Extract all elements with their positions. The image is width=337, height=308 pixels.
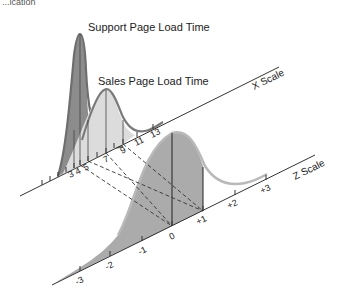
- z-tick-label: -1: [136, 244, 148, 257]
- z-tick-label: +3: [258, 182, 272, 195]
- z-axis-label: Z Scale: [291, 157, 327, 182]
- z-tick-label: -2: [103, 259, 115, 272]
- support-curve-title: Support Page Load Time: [88, 21, 210, 33]
- z-tick-label: +2: [225, 197, 239, 210]
- z-tick-label: -3: [73, 274, 85, 287]
- x-tick-label: 11: [132, 135, 145, 148]
- x-tick-label: 7: [101, 154, 110, 165]
- sales-curve-title: Sales Page Load Time: [98, 75, 209, 87]
- z-tick-label: +1: [194, 213, 208, 226]
- z-tick-label: 0: [167, 231, 176, 242]
- x-axis-label: X Scale: [250, 67, 286, 92]
- x-tick-label: 5: [81, 162, 90, 173]
- z-score-mapping-diagram: ...ication -3 -2 -1 0 +1 +2 +3 Z Scale: [0, 0, 337, 308]
- x-tick-label: 4: [73, 166, 82, 177]
- cropped-caption: ...ication: [2, 0, 36, 7]
